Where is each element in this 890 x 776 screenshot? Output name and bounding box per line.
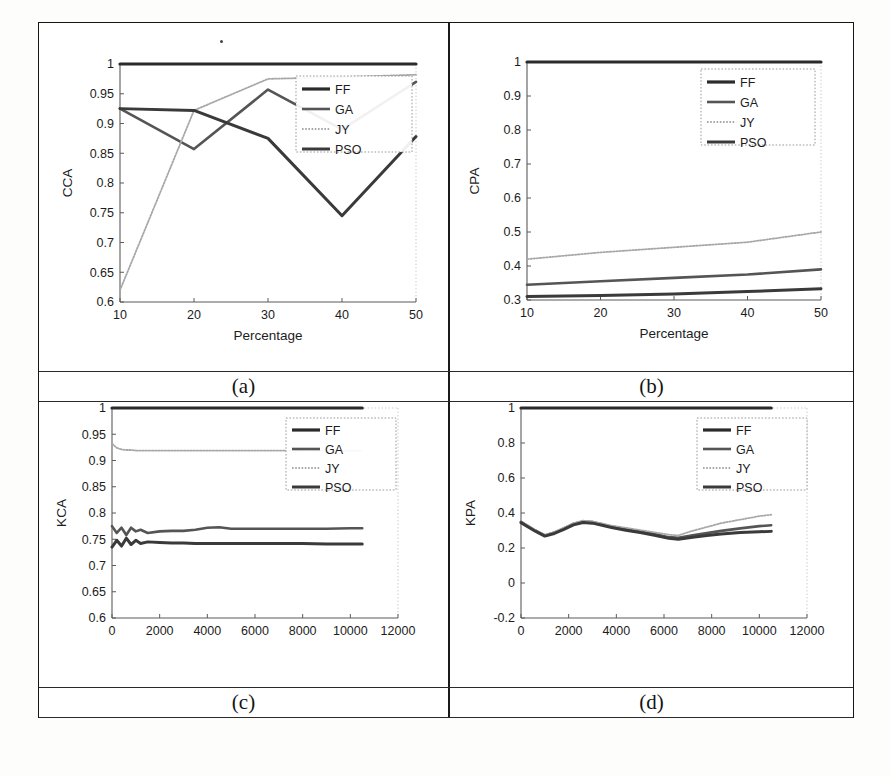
y-tick-label: 0.6 xyxy=(97,295,114,309)
y-tick-label: 0.95 xyxy=(82,428,106,442)
x-tick-label: 50 xyxy=(409,308,423,322)
x-tick-label: 12000 xyxy=(381,624,416,638)
series-line-ga xyxy=(112,526,362,535)
x-tick-label: 10000 xyxy=(333,624,368,638)
legend-label-ga: GA xyxy=(335,103,354,117)
x-tick-label: 0 xyxy=(518,624,525,638)
x-tick-label: 6000 xyxy=(241,624,269,638)
x-axis-label: Percentage xyxy=(233,328,302,343)
x-tick-label: 10000 xyxy=(742,624,777,638)
legend-d: FFGAJYPSO xyxy=(697,418,807,495)
legend-label-ff: FF xyxy=(740,76,756,90)
legend-label-ga: GA xyxy=(736,443,755,457)
series-line-pso xyxy=(527,289,821,297)
chart-panel-a: 0.60.650.70.750.80.850.90.9511020304050C… xyxy=(38,24,447,348)
y-tick-label: 0.95 xyxy=(90,87,114,101)
y-tick-label: 0.4 xyxy=(504,259,521,273)
y-tick-label: 0.5 xyxy=(504,225,521,239)
plot-c-svg: 0.60.650.70.750.80.850.90.95102000400060… xyxy=(38,380,447,664)
y-tick-label: 0.6 xyxy=(504,191,521,205)
y-axis-label: KPA xyxy=(463,500,478,526)
legend-label-ga: GA xyxy=(740,96,759,110)
x-tick-label: 40 xyxy=(741,306,755,320)
series-line-pso xyxy=(112,538,362,547)
y-tick-label: 0.3 xyxy=(504,293,521,307)
legend-label-pso: PSO xyxy=(736,481,763,495)
x-tick-label: 0 xyxy=(109,624,116,638)
legend-label-jy: JY xyxy=(335,123,350,137)
x-tick-label: 10 xyxy=(113,308,127,322)
legend-b: FFGAJYPSO xyxy=(701,69,815,150)
chart-panel-c: 0.60.650.70.750.80.850.90.95102000400060… xyxy=(38,380,447,664)
legend-a: FFGAJYPSO xyxy=(296,76,412,157)
legend-label-jy: JY xyxy=(325,462,340,476)
legend-label-ga: GA xyxy=(325,443,344,457)
x-tick-label: 4000 xyxy=(602,624,630,638)
legend-label-ff: FF xyxy=(736,424,752,438)
legend-label-ff: FF xyxy=(335,83,351,97)
x-tick-label: 8000 xyxy=(698,624,726,638)
y-tick-label: 0.6 xyxy=(89,611,106,625)
y-tick-label: 0.8 xyxy=(498,436,515,450)
y-tick-label: 1 xyxy=(514,55,521,69)
y-tick-label: 0.4 xyxy=(498,506,515,520)
y-tick-label: 0.8 xyxy=(504,123,521,137)
chart-panel-d: -0.200.20.40.60.810200040006000800010000… xyxy=(449,380,854,664)
y-tick-label: 0.8 xyxy=(97,176,114,190)
x-tick-label: 20 xyxy=(187,308,201,322)
y-tick-label: 0.65 xyxy=(90,266,114,280)
series-line-ga xyxy=(527,269,821,284)
y-tick-label: 0.75 xyxy=(90,206,114,220)
x-tick-label: 20 xyxy=(594,306,608,320)
caption-d: (d) xyxy=(449,687,854,717)
y-axis-label: CPA xyxy=(467,168,482,195)
x-tick-label: 40 xyxy=(335,308,349,322)
legend-label-jy: JY xyxy=(736,462,751,476)
y-tick-label: 0.85 xyxy=(90,147,114,161)
x-tick-label: 8000 xyxy=(289,624,317,638)
y-tick-label: 0.8 xyxy=(89,506,106,520)
legend-label-ff: FF xyxy=(325,424,341,438)
plot-b-svg: 0.30.40.50.60.70.80.911020304050CPAPerce… xyxy=(449,24,854,348)
y-tick-label: 0.85 xyxy=(82,480,106,494)
y-axis-label: KCA xyxy=(54,499,69,527)
y-tick-label: 0.9 xyxy=(504,89,521,103)
series-line-jy xyxy=(527,232,821,259)
y-tick-label: 0.75 xyxy=(82,533,106,547)
x-tick-label: 12000 xyxy=(790,624,825,638)
x-tick-label: 30 xyxy=(667,306,681,320)
y-tick-label: 0.7 xyxy=(97,236,114,250)
plot-d-svg: -0.200.20.40.60.810200040006000800010000… xyxy=(449,380,854,664)
y-tick-label: 0.7 xyxy=(89,559,106,573)
legend-label-pso: PSO xyxy=(335,143,362,157)
legend-label-pso: PSO xyxy=(325,481,352,495)
y-tick-label: 0.2 xyxy=(498,541,515,555)
y-tick-label: 1 xyxy=(508,401,515,415)
y-tick-label: 0.65 xyxy=(82,585,106,599)
legend-c: FFGAJYPSO xyxy=(286,418,396,495)
x-tick-label: 2000 xyxy=(555,624,583,638)
plot-a-svg: 0.60.650.70.750.80.850.90.9511020304050C… xyxy=(38,24,447,348)
x-tick-label: 10 xyxy=(520,306,534,320)
y-tick-label: 0.7 xyxy=(504,157,521,171)
x-tick-label: 30 xyxy=(261,308,275,322)
legend-label-jy: JY xyxy=(740,116,755,130)
y-tick-label: 0.9 xyxy=(89,454,106,468)
x-tick-label: 50 xyxy=(814,306,828,320)
y-tick-label: 1 xyxy=(99,401,106,415)
caption-c: (c) xyxy=(39,687,448,717)
y-tick-label: 0 xyxy=(508,576,515,590)
x-axis-label: Percentage xyxy=(639,326,708,341)
y-axis-label: CCA xyxy=(60,169,75,198)
y-tick-label: 0.6 xyxy=(498,471,515,485)
y-tick-label: 0.9 xyxy=(97,117,114,131)
figure-root: (a) (b) (c) (d) 0.60.650.70.750.80.850.9… xyxy=(0,0,890,776)
y-tick-label: -0.2 xyxy=(493,611,515,625)
chart-panel-b: 0.30.40.50.60.70.80.911020304050CPAPerce… xyxy=(449,24,854,348)
x-tick-label: 2000 xyxy=(146,624,174,638)
table-row-divider-4 xyxy=(39,717,853,718)
y-tick-label: 1 xyxy=(107,57,114,71)
legend-label-pso: PSO xyxy=(740,136,767,150)
x-tick-label: 4000 xyxy=(193,624,221,638)
x-tick-label: 6000 xyxy=(650,624,678,638)
